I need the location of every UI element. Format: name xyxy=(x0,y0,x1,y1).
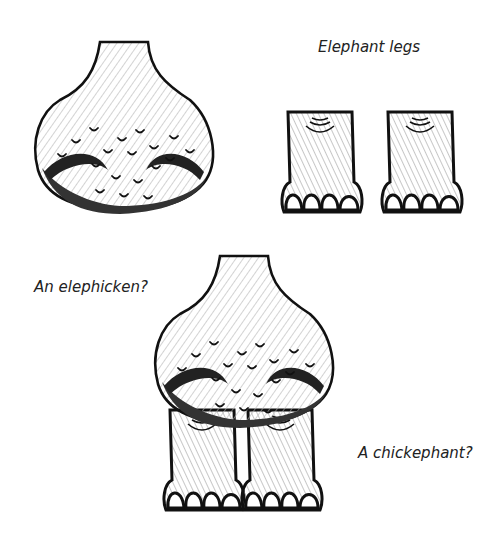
caption-elephant-legs: Elephant legs xyxy=(318,38,420,56)
elephant-leg-left xyxy=(282,112,362,212)
elephicken-body xyxy=(155,256,333,428)
chicken-body-drawing xyxy=(35,42,213,214)
elephant-leg-right xyxy=(382,112,462,212)
illustration: Elephant legs An elephicken? A chickepha… xyxy=(0,0,494,535)
caption-chickephant: A chickephant? xyxy=(358,444,473,462)
caption-elephicken: An elephicken? xyxy=(34,278,148,296)
